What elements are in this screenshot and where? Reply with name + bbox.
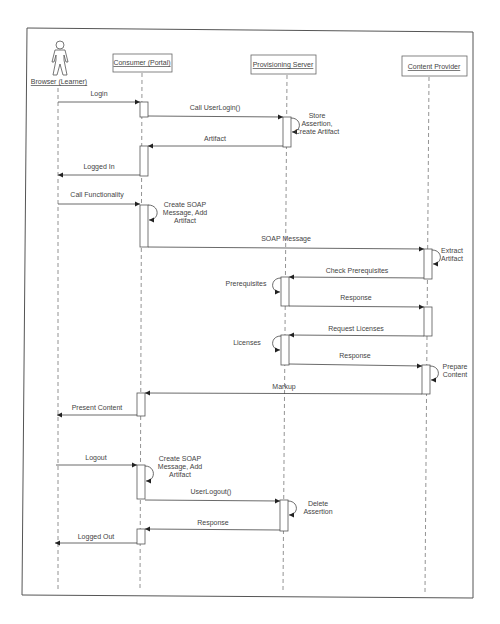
message-label: Logged In (83, 163, 114, 171)
self-message-label: Artifact (441, 255, 463, 262)
self-message-label: Store (309, 112, 326, 119)
self-message-arrow (288, 501, 296, 515)
self-message-arrow (148, 205, 157, 220)
message-label: Artifact (204, 135, 226, 142)
self-message-label: Artifact (169, 471, 191, 478)
self-message-label: Artifact (174, 217, 196, 224)
self-message-label: Assertion, (301, 120, 332, 127)
message-label: Markup (272, 383, 295, 391)
activation-bar (137, 393, 145, 416)
diagram-frame (22, 28, 473, 598)
activation-bar (137, 465, 145, 499)
message-label: UserLogout() (191, 488, 232, 496)
message-label: Call Functionality (70, 191, 124, 199)
self-message-label: Prepare (443, 363, 468, 371)
message-arrow (148, 247, 424, 249)
self-message-arrow (273, 336, 281, 350)
self-message-arrow (432, 250, 440, 264)
activation-bar (281, 335, 289, 365)
message-label: Logout (85, 454, 106, 462)
sequence-diagram: Browser (Learner) Consumer (Portal) Prov… (0, 0, 500, 624)
self-message-label: Create Artifact (295, 128, 339, 135)
activation-bar (424, 307, 432, 336)
self-message-label: Delete (308, 500, 328, 507)
activation-bar (137, 529, 145, 544)
participant-consumer-label: Consumer (Portal) (113, 59, 170, 67)
message-arrow (145, 393, 422, 394)
activation-bar (424, 249, 432, 279)
participant-content-label: Content Provider (408, 63, 461, 70)
self-message-label: Create SOAP (164, 201, 207, 208)
message-arrow (289, 335, 424, 336)
message-arrow (148, 116, 283, 117)
self-message-label: Assertion (303, 508, 332, 515)
self-message-label: Licenses (233, 339, 261, 346)
message-label: Present Content (72, 404, 123, 411)
activation-bar (140, 205, 148, 247)
participant-provisioning-label: Provisioning Server (253, 61, 314, 69)
self-message-label: Prerequisites (226, 280, 267, 288)
self-message-arrow (430, 366, 438, 380)
self-message-label: Extract (441, 247, 463, 254)
activation-bar (140, 146, 148, 176)
message-label: Login (90, 90, 107, 98)
message-label: Call UserLogin() (190, 104, 241, 112)
message-label: Check Prerequisites (326, 267, 389, 275)
message-arrow (289, 364, 422, 366)
self-message-label: Message, Add (163, 209, 207, 217)
message-arrow (145, 529, 280, 530)
activation-bar (281, 277, 289, 306)
message-label: Response (340, 294, 372, 302)
message-label: Logged Out (78, 533, 115, 541)
self-message-arrow (145, 466, 153, 481)
activation-bar (422, 365, 430, 394)
self-message-label: Content (443, 371, 468, 378)
activation-bar (283, 117, 291, 147)
message-label: Request Licenses (328, 325, 384, 333)
message-arrow (289, 306, 424, 307)
message-arrow (145, 500, 280, 501)
message-label: Response (197, 519, 229, 527)
participant-browser-label: Browser (Learner) (31, 78, 87, 86)
activation-bar (140, 102, 148, 117)
message-label: Response (339, 352, 371, 360)
message-arrow (289, 277, 424, 278)
activation-bar (280, 500, 288, 531)
self-message-arrow (273, 278, 281, 292)
message-label: SOAP Message (261, 235, 311, 243)
self-message-label: Message, Add (158, 463, 202, 471)
self-message-label: Create SOAP (159, 455, 202, 462)
actor-icon (52, 41, 68, 75)
